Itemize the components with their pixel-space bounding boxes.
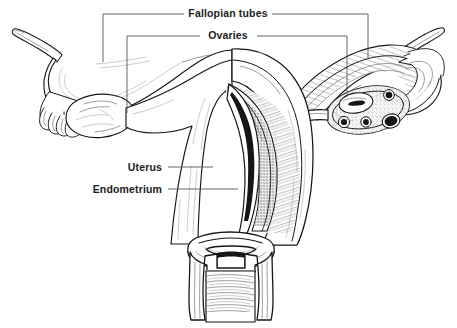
ovary-follicle-small-2 [361,117,371,127]
diagram-canvas: Fallopian tubes Ovaries Uterus Endometri… [0,0,457,328]
label-uterus: Uterus [128,161,162,173]
label-ovaries: Ovaries [208,29,248,41]
anatomical-diagram-figure: Fallopian tubes Ovaries Uterus Endometri… [0,0,457,328]
ovary-follicle-small-1 [384,90,395,101]
ovary-follicle-small-3 [338,116,349,127]
label-endometrium: Endometrium [93,183,162,195]
label-fallopian-tubes: Fallopian tubes [188,7,267,19]
